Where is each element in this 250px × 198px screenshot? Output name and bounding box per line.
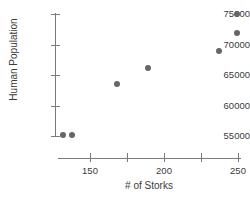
y-tick-label: 65000 [204, 70, 250, 80]
y-tick [51, 106, 60, 107]
y-axis-title: Human Population [8, 0, 19, 120]
x-tick-label: 250 [218, 166, 250, 176]
x-tick-label: 200 [144, 166, 184, 176]
x-tick [238, 153, 239, 162]
data-point [114, 81, 120, 87]
y-tick [51, 136, 60, 137]
x-axis-title: # of Storks [55, 180, 243, 191]
x-tick-label: 150 [70, 166, 110, 176]
x-tick [90, 153, 91, 162]
x-axis-line [58, 158, 241, 159]
data-point [60, 132, 66, 138]
y-tick [51, 75, 60, 76]
y-tick-label: 55000 [204, 131, 250, 141]
x-tick [201, 153, 202, 162]
data-point [216, 48, 222, 54]
data-point [145, 65, 151, 71]
y-tick [51, 45, 60, 46]
y-tick-label: 75000 [204, 9, 250, 19]
data-point [234, 11, 240, 17]
data-point [234, 30, 240, 36]
y-tick-label: 70000 [204, 40, 250, 50]
x-tick [164, 153, 165, 162]
data-point [69, 132, 75, 138]
y-tick-label: 60000 [204, 101, 250, 111]
x-tick [127, 153, 128, 162]
scatter-chart: 5500060000650007000075000 150200250 Huma… [0, 0, 250, 198]
y-tick [51, 14, 60, 15]
